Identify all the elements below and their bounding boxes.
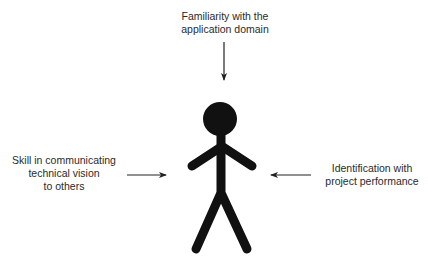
figure-right-arm [223,147,252,166]
figure-right-leg [222,195,247,249]
diagram-canvas [0,0,428,263]
stick-figure-icon [192,102,252,249]
figure-left-leg [196,195,220,249]
